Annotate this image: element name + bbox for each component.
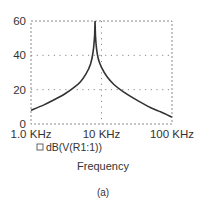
- y-tick-label: 40: [13, 49, 26, 61]
- legend-label: dB(V(R1:1)): [46, 141, 102, 153]
- x-tick-label: 100 KHz: [150, 128, 194, 140]
- x-tick-label: 1.0 KHz: [11, 128, 52, 140]
- y-axis-ticks: 0204060: [13, 15, 26, 130]
- x-axis-label: Frequency: [77, 160, 129, 172]
- legend-square-icon: [37, 144, 43, 150]
- frequency-response-chart: 0204060 1.0 KHz10 KHz100 KHz dB(V(R1:1))…: [0, 0, 205, 203]
- series-line-dbv-r1: [31, 21, 172, 117]
- y-tick-label: 20: [13, 84, 26, 96]
- y-tick-label: 60: [13, 15, 26, 27]
- figure-caption: (a): [97, 187, 109, 198]
- x-tick-label: 10 KHz: [83, 128, 121, 140]
- x-axis-ticks: 1.0 KHz10 KHz100 KHz: [11, 128, 195, 140]
